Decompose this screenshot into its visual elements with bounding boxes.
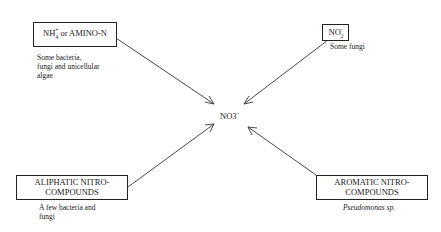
- node-aliphatic-box: ALIPHATIC NITRO- COMPOUNDS: [16, 175, 128, 200]
- node-ammonium-label: NH4+ or AMINO-N: [43, 26, 107, 42]
- node-nitrite-label: NO2-: [329, 25, 343, 41]
- node-nitrite-box: NO2-: [322, 24, 349, 41]
- node-aromatic-label-line2: COMPOUNDS: [345, 188, 398, 198]
- node-aliphatic-note: A few bacteria and fungi: [39, 203, 95, 221]
- arrow-ammonium-to-nitrate: [116, 38, 214, 104]
- arrow-aliphatic-to-nitrate: [128, 124, 214, 187]
- node-aliphatic-label-line2: COMPOUNDS: [45, 188, 98, 198]
- node-ammonium-box: NH4+ or AMINO-N: [33, 22, 117, 47]
- node-aromatic-note: Pseudomonas sp.: [343, 203, 395, 212]
- arrow-aromatic-to-nitrate: [248, 127, 316, 175]
- node-aromatic-box: AROMATIC NITRO- COMPOUNDS: [316, 175, 428, 200]
- arrow-nitrite-to-nitrate: [244, 40, 328, 104]
- node-ammonium-note: Some bacteria, fungi and unicellular alg…: [37, 53, 99, 80]
- center-nitrate-label: NO3-: [220, 110, 238, 121]
- node-nitrite-note: Some fungi: [330, 42, 365, 51]
